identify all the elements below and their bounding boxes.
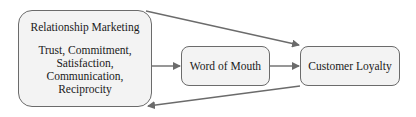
node-label: Customer Loyalty bbox=[308, 60, 391, 72]
node-relationship-marketing: Relationship Marketing Trust, Commitment… bbox=[18, 10, 152, 107]
node-word-of-mouth: Word of Mouth bbox=[181, 46, 270, 86]
factor-list: Trust, Commitment, Satisfaction, Communi… bbox=[38, 44, 131, 96]
node-label: Word of Mouth bbox=[190, 60, 261, 72]
factor-line: Reciprocity bbox=[38, 83, 131, 96]
node-title: Relationship Marketing bbox=[31, 21, 140, 34]
factor-line: Trust, Commitment, bbox=[38, 44, 131, 57]
node-customer-loyalty: Customer Loyalty bbox=[300, 46, 400, 86]
arrow-cl-to-rm bbox=[148, 86, 300, 106]
arrow-rm-to-cl bbox=[146, 11, 299, 45]
factor-line: Communication, bbox=[38, 70, 131, 83]
factor-line: Satisfaction, bbox=[38, 57, 131, 70]
